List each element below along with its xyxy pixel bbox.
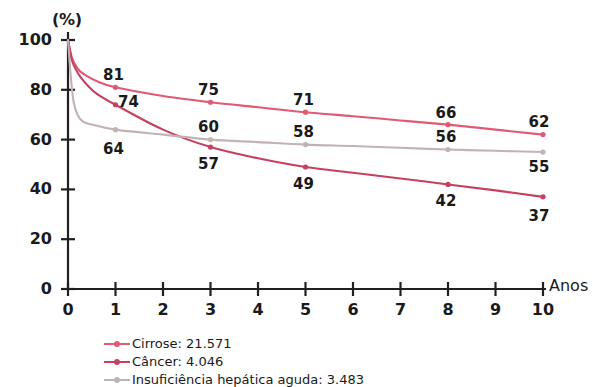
data-point-marker (208, 144, 213, 149)
data-point-marker (208, 137, 213, 142)
data-point-marker (445, 182, 450, 187)
series-line (68, 40, 543, 135)
x-axis-tick-label: 9 (483, 300, 509, 319)
data-point-label: 42 (431, 192, 461, 210)
x-axis-tick-label: 3 (198, 300, 224, 319)
legend-label: Câncer: 4.046 (132, 354, 223, 369)
data-point-label: 55 (524, 158, 554, 176)
y-axis-tick-label: 60 (8, 130, 52, 149)
x-axis-tick-label: 4 (245, 300, 271, 319)
data-point-marker (445, 122, 450, 127)
x-axis-tick-label: 10 (530, 300, 556, 319)
y-axis-tick-label: 40 (8, 179, 52, 198)
data-point-label: 49 (289, 175, 319, 193)
legend-item: Câncer: 4.046 (104, 354, 364, 369)
data-point-label: 62 (524, 113, 554, 131)
data-point-label: 75 (194, 81, 224, 99)
y-axis-tick-label: 80 (8, 80, 52, 99)
legend-label: Cirrose: 21.571 (132, 336, 232, 351)
data-point-marker (208, 100, 213, 105)
series-line (68, 40, 543, 197)
legend-line-marker-icon (104, 338, 130, 350)
legend-item: Insuficiência hepática aguda: 3.483 (104, 372, 364, 387)
data-point-marker (540, 194, 545, 199)
data-point-marker (540, 132, 545, 137)
x-axis-tick-label: 5 (293, 300, 319, 319)
x-axis-tick-label: 7 (388, 300, 414, 319)
data-point-label: 37 (524, 207, 554, 225)
data-point-marker (303, 164, 308, 169)
data-point-label: 56 (431, 128, 461, 146)
legend-line-marker-icon (104, 374, 130, 386)
y-axis-tick-label: 0 (8, 279, 52, 298)
data-point-label: 57 (194, 155, 224, 173)
data-point-label: 64 (99, 140, 129, 158)
data-point-marker (445, 147, 450, 152)
data-point-label: 58 (289, 123, 319, 141)
data-point-label: 71 (289, 91, 319, 109)
x-axis-tick-label: 0 (55, 300, 81, 319)
data-point-marker (303, 142, 308, 147)
data-point-marker (540, 149, 545, 154)
legend-item: Cirrose: 21.571 (104, 336, 364, 351)
data-point-marker (113, 85, 118, 90)
data-point-label: 66 (431, 104, 461, 122)
data-point-marker (113, 127, 118, 132)
data-point-label: 81 (99, 66, 129, 84)
y-axis-tick-label: 20 (8, 229, 52, 248)
x-axis-tick-label: 8 (435, 300, 461, 319)
legend-line-marker-icon (104, 356, 130, 368)
data-point-marker (303, 110, 308, 115)
data-point-label: 60 (194, 118, 224, 136)
x-axis-tick-label: 1 (103, 300, 129, 319)
x-axis-tick-label: 2 (150, 300, 176, 319)
x-axis-tick-label: 6 (340, 300, 366, 319)
chart-legend: Cirrose: 21.571Câncer: 4.046Insuficiênci… (104, 336, 364, 387)
data-point-label: 74 (114, 93, 144, 111)
legend-label: Insuficiência hepática aguda: 3.483 (132, 372, 364, 387)
y-axis-tick-label: 100 (8, 30, 52, 49)
